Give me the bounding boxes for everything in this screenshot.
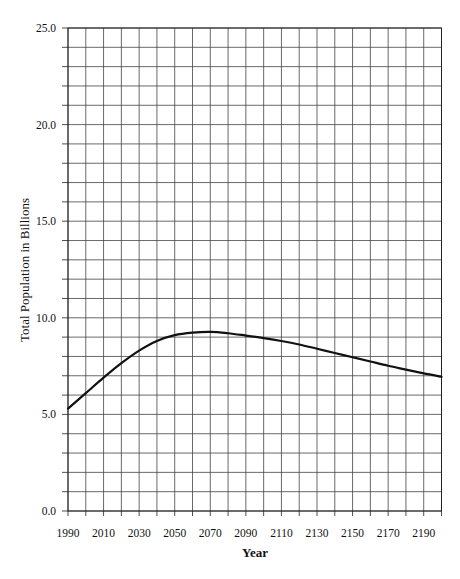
y-tick-label: 15.0 (36, 215, 56, 227)
grid-lines (68, 28, 442, 511)
y-axis-tick-labels: 0.05.010.015.020.025.0 (36, 22, 56, 517)
x-tick-label: 2030 (128, 527, 151, 539)
y-tick-label: 20.0 (36, 119, 56, 131)
x-tick-label: 2010 (92, 527, 115, 539)
x-tick-label: 2070 (199, 527, 222, 539)
x-axis-tick-labels: 1990201020302050207020902110213021502170… (57, 527, 436, 539)
y-tick-label: 10.0 (36, 312, 56, 324)
y-axis-title: Total Population in Billions (17, 198, 32, 342)
x-tick-label: 2170 (377, 527, 400, 539)
y-tick-label: 5.0 (42, 408, 57, 420)
x-tick-label: 2090 (234, 527, 257, 539)
x-tick-label: 1990 (57, 527, 80, 539)
x-tick-label: 2150 (341, 527, 364, 539)
population-curve (68, 332, 442, 409)
plot-frame (68, 28, 442, 511)
x-tick-label: 2130 (306, 527, 329, 539)
x-tick-label: 2110 (270, 527, 293, 539)
line-chart: 1990201020302050207020902110213021502170… (0, 0, 460, 579)
x-tick-label: 2190 (412, 527, 435, 539)
axis-ticks (62, 28, 442, 516)
y-tick-label: 0.0 (42, 505, 57, 517)
x-axis-title: Year (242, 545, 268, 560)
x-tick-label: 2050 (163, 527, 186, 539)
y-tick-label: 25.0 (36, 22, 56, 34)
